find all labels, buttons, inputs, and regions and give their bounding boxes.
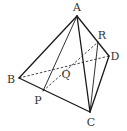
- edge-BC: [19, 78, 90, 112]
- label-C: C: [87, 116, 95, 129]
- edge-PR: [43, 42, 98, 91]
- label-B: B: [7, 73, 15, 86]
- tetrahedron-diagram: A B C D R P Q: [0, 0, 127, 131]
- label-Q: Q: [61, 68, 70, 81]
- point-labels: A B C D R P Q: [7, 1, 120, 129]
- label-P: P: [34, 94, 42, 107]
- solid-edges: [19, 16, 109, 112]
- label-R: R: [98, 29, 107, 42]
- label-D: D: [111, 50, 120, 63]
- edge-AP: [43, 16, 77, 91]
- label-A: A: [72, 1, 82, 14]
